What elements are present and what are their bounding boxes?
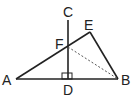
segment-ae — [16, 32, 90, 79]
label-d: D — [63, 82, 73, 98]
label-a: A — [2, 72, 12, 88]
segment-fb-dashed — [68, 47, 118, 79]
geometry-diagram: C E F A B D — [0, 0, 140, 104]
label-c: C — [63, 4, 73, 20]
right-angle-marker — [62, 73, 72, 79]
label-b: B — [121, 72, 130, 88]
label-e: E — [84, 17, 93, 33]
label-f: F — [55, 36, 64, 52]
segment-eb — [90, 32, 118, 79]
